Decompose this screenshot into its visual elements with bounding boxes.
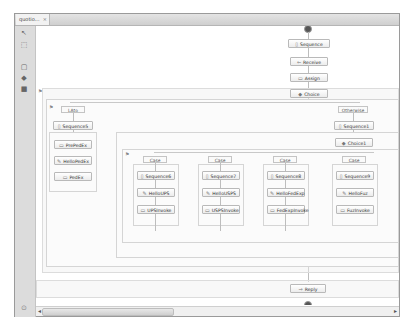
hellousps-label: HelloUSPS: [212, 191, 236, 196]
sequence6-node[interactable]: ▯Sequence6: [137, 171, 175, 180]
assign-node[interactable]: ▭Assign: [290, 73, 328, 82]
snippet-icon: ✎: [143, 189, 147, 198]
upsinvoke-label: UPSInvoke: [147, 208, 171, 213]
branch-line: [70, 102, 360, 103]
pedex-label: PedEx: [69, 175, 83, 180]
sequence8-node[interactable]: ▯Sequence8: [267, 171, 305, 180]
flag-icon: ⚑: [125, 151, 129, 157]
choice-node[interactable]: ◆Choice: [290, 89, 328, 98]
preprepedex-label: PrePedEx: [66, 143, 87, 148]
horizontal-scrollbar[interactable]: ◂ ▸: [36, 306, 399, 316]
snippet-icon: ✎: [206, 189, 210, 198]
invoke-icon: ▭: [63, 173, 68, 182]
editor-tab-bar: quotio... ×: [15, 14, 399, 26]
sequence-icon: ▯: [295, 40, 298, 49]
sequence-icon: ▯: [339, 122, 342, 131]
case-label[interactable]: Case: [143, 156, 167, 163]
process-canvas[interactable]: ▯Sequence ⇐Receive ▭Assign ⚑ ◆Choice ⚑ L…: [36, 26, 399, 305]
flag-icon: ⚑: [38, 88, 42, 94]
fuzinvoke-label: FuzInvoke: [347, 208, 370, 213]
sequence-icon: ▯: [206, 172, 209, 181]
hellousps-node[interactable]: ✎HelloUSPS: [202, 188, 240, 197]
sequence9-label: Sequence9: [345, 174, 371, 179]
marquee-tool-icon[interactable]: ⬚: [19, 41, 29, 49]
receive-icon: ⇐: [297, 58, 301, 67]
when-label[interactable]: LAto: [61, 106, 85, 113]
uspsinvoke-label: USPSInvoke: [212, 208, 239, 213]
choice-label: Choice: [304, 92, 320, 97]
hellofedexp-node[interactable]: ✎HelloFedExp: [267, 188, 305, 197]
sequence1-label: Sequence1: [344, 124, 370, 129]
fedexpinvoke-node[interactable]: ▭FedExpInvoke: [267, 205, 305, 214]
uspsinvoke-node[interactable]: ▭USPSInvoke: [202, 205, 240, 214]
palette-grip-icon[interactable]: ⊙: [19, 304, 29, 312]
control-group-icon[interactable]: ◆: [19, 74, 29, 82]
sequence7-label: Sequence7: [211, 174, 237, 179]
reply-node[interactable]: ⇒Reply: [290, 284, 326, 293]
invoke-icon: ▭: [270, 206, 275, 215]
scroll-thumb[interactable]: [42, 308, 174, 316]
case-branch-line: [154, 152, 374, 153]
sequence8-label: Sequence8: [276, 174, 302, 179]
sequence7-node[interactable]: ▯Sequence7: [202, 171, 240, 180]
case-label[interactable]: Case: [273, 156, 297, 163]
sequence-icon: ▯: [141, 172, 144, 181]
hellofuz-label: HelloFuz: [348, 191, 367, 196]
snippet-icon: ✎: [270, 189, 274, 198]
assign-icon: ▭: [298, 74, 303, 83]
fedexpinvoke-label: FedExpInvoke: [277, 208, 309, 213]
reply-band: [36, 280, 399, 298]
scroll-right-arrow[interactable]: ▸: [392, 307, 399, 315]
sequence-node[interactable]: ▯Sequence: [288, 39, 330, 48]
snippet-icon: ✎: [57, 157, 61, 166]
choice-icon: ◆: [298, 90, 302, 99]
helloups-label: HelloUPS: [149, 191, 170, 196]
sequence1-node[interactable]: ▯Sequence1: [334, 121, 374, 130]
sequence5-label: Sequence5: [63, 124, 89, 129]
fuzinvoke-node[interactable]: ▭FuzInvoke: [336, 205, 374, 214]
fault-group-icon[interactable]: ■: [19, 85, 29, 93]
otherwise-label[interactable]: Otherwise: [338, 106, 368, 113]
choice1-node[interactable]: ◆Choice1: [335, 138, 373, 147]
receive-label: Receive: [303, 60, 321, 65]
assign-label: Assign: [305, 76, 320, 81]
invoke-icon: ▭: [205, 206, 210, 215]
sequence6-label: Sequence6: [146, 174, 172, 179]
choice1-label: Choice1: [348, 141, 366, 146]
editor-tab-label: quotio...: [19, 16, 40, 22]
invoke-icon: ▭: [340, 206, 345, 215]
editor-tab[interactable]: quotio... ×: [16, 14, 50, 25]
receive-node[interactable]: ⇐Receive: [290, 57, 328, 66]
flag-icon: ⚑: [49, 104, 53, 110]
hellopedex-node[interactable]: ✎HelloPedEx: [54, 156, 92, 165]
sequence-label: Sequence: [300, 42, 323, 47]
hellopedex-label: HelloPedEx: [63, 159, 89, 164]
preprepedex-node[interactable]: ▭PrePedEx: [54, 140, 92, 149]
action-group-icon[interactable]: ▢: [19, 63, 29, 71]
helloups-node[interactable]: ✎HelloUPS: [137, 188, 175, 197]
end-node-icon: [304, 301, 312, 305]
invoke-icon: ▭: [141, 206, 146, 215]
sequence5-node[interactable]: ▯Sequence5: [53, 121, 93, 130]
hellofedexp-label: HelloFedExp: [276, 191, 304, 196]
bpel-editor-window: quotio... × ↖ ⬚ ▢ ◆ ■ ⊙ ▯Sequence ⇐Recei…: [14, 13, 400, 317]
choice-icon: ◆: [342, 139, 346, 148]
pedex-node[interactable]: ▭PedEx: [54, 172, 92, 181]
snippet-icon: ✎: [342, 189, 346, 198]
select-tool-icon[interactable]: ↖: [19, 29, 29, 37]
case-label[interactable]: Case: [208, 156, 232, 163]
hellofuz-node[interactable]: ✎HelloFuz: [336, 188, 374, 197]
close-tab-icon[interactable]: ×: [43, 14, 47, 25]
assign-icon: ▭: [59, 141, 64, 150]
reply-label: Reply: [305, 287, 318, 292]
sequence-icon: ▯: [271, 172, 274, 181]
palette: ↖ ⬚ ▢ ◆ ■ ⊙: [15, 26, 36, 317]
reply-icon: ⇒: [299, 285, 303, 294]
case-label[interactable]: Case: [342, 156, 366, 163]
sequence-icon: ▯: [340, 172, 343, 181]
sequence9-node[interactable]: ▯Sequence9: [336, 171, 374, 180]
upsinvoke-node[interactable]: ▭UPSInvoke: [137, 205, 175, 214]
sequence-icon: ▯: [58, 122, 61, 131]
